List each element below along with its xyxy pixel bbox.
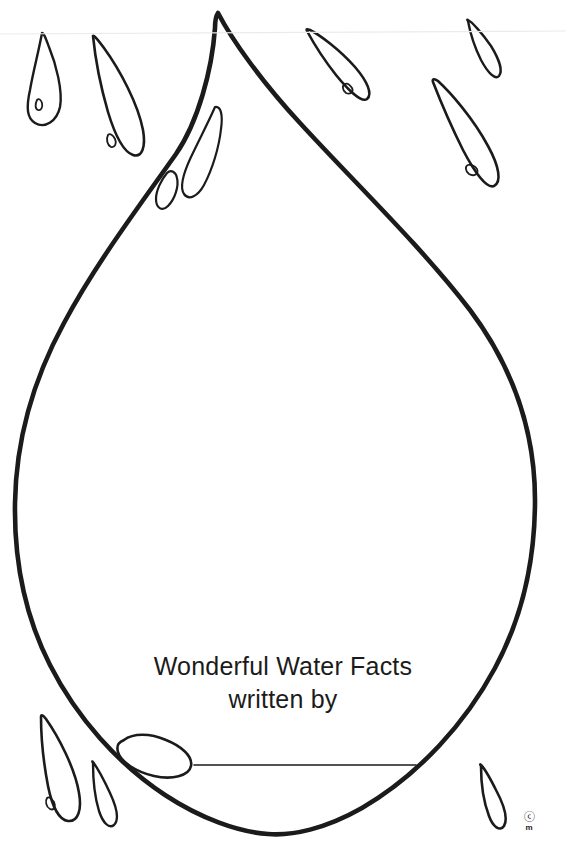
copyright-credit: ⓒ m	[516, 812, 542, 832]
water-drop-artwork	[0, 0, 566, 847]
small-drop-bottom-right-1	[480, 764, 505, 828]
small-drop-top-right-2	[467, 20, 500, 78]
small-drop-top-left-1	[28, 33, 61, 125]
copyright-icon: ⓒ	[516, 812, 542, 823]
small-drop-inner-mark	[36, 99, 43, 110]
drop-highlight-lower-capsule	[117, 735, 191, 778]
small-drop-inner-mark	[107, 134, 116, 147]
worksheet-page: Wonderful Water Facts written by ⓒ m	[0, 0, 566, 847]
small-drop-top-right-1	[307, 29, 370, 99]
small-drop-bottom-left-1	[41, 715, 80, 821]
small-drop-bottom-left-2	[92, 761, 117, 826]
drop-highlight-upper-long	[182, 107, 222, 197]
small-drop-top-left-2	[93, 36, 144, 156]
artist-initials: m	[516, 823, 542, 832]
small-drop-right-1	[433, 79, 499, 186]
